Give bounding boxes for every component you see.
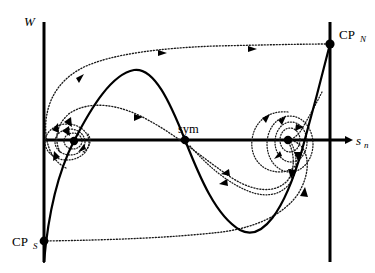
horizontal-axis-label: s <box>356 133 361 148</box>
cp-s-label: CP <box>12 234 28 249</box>
flow-arrow-left-spiral-down <box>53 151 60 161</box>
cp-n-label: CP <box>339 27 355 42</box>
phase-diagram-svg: W s n CP N CP S sym <box>0 0 375 273</box>
phase-diagram-figure: W s n CP N CP S sym <box>0 0 375 273</box>
flow-arrow-right-outer <box>262 114 270 123</box>
flow-arrow-mid-left <box>64 117 72 127</box>
cp-s-label-subscript: S <box>33 241 38 251</box>
sym-node-dot <box>181 136 189 144</box>
cp-n-label-subscript: N <box>359 34 367 44</box>
lower-separatrix-curve <box>44 140 307 241</box>
left-node-dot <box>70 137 78 145</box>
flow-arrow-upper-mid <box>158 50 167 56</box>
node-dots-group <box>40 39 335 245</box>
flow-arrow-left-spiral-up <box>62 126 70 136</box>
right-spiral-loop-3 <box>267 116 313 172</box>
sym-label: sym <box>178 122 199 136</box>
cp-n-dot <box>325 39 334 48</box>
flow-arrow-upper-right <box>248 46 257 52</box>
flow-arrow-sym-descent <box>219 179 228 186</box>
flow-arrow-upper-rise <box>76 74 84 83</box>
horizontal-axis-label-subscript: n <box>364 140 369 150</box>
cp-s-dot <box>40 237 49 246</box>
horizontal-axis-arrow-icon <box>345 136 353 144</box>
vertical-axis-label: W <box>24 14 36 29</box>
equilibrium-curve <box>44 44 330 262</box>
flow-arrow-mid-right <box>221 169 230 176</box>
right-node-dot <box>284 136 292 144</box>
flow-arrow-lower-rise <box>300 187 308 197</box>
